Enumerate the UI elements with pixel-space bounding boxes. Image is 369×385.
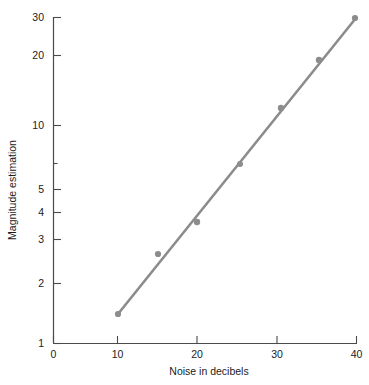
data-point bbox=[352, 15, 358, 21]
y-tick-label-30: 30 bbox=[32, 11, 44, 23]
y-axis-title: Magnitude estimation bbox=[6, 140, 18, 240]
y-tick-label-20: 20 bbox=[32, 49, 44, 61]
data-point bbox=[316, 57, 322, 63]
x-tick-label-0: 0 bbox=[51, 348, 57, 360]
y-tick-label-4: 4 bbox=[38, 206, 44, 218]
y-tick-label-2: 2 bbox=[38, 277, 44, 289]
chart-container: 30 20 10 5 4 3 2 1 0 10 20 30 40 Noise i… bbox=[0, 0, 369, 385]
y-tick-label-5: 5 bbox=[38, 183, 44, 195]
magnitude-estimation-chart: 30 20 10 5 4 3 2 1 0 10 20 30 40 Noise i… bbox=[0, 0, 369, 385]
y-tick-label-10: 10 bbox=[32, 119, 44, 131]
x-tick-label-10: 10 bbox=[112, 348, 124, 360]
x-tick-label-20: 20 bbox=[191, 348, 203, 360]
x-axis-title: Noise in decibels bbox=[169, 365, 248, 377]
data-point bbox=[155, 251, 161, 257]
x-tick-label-40: 40 bbox=[351, 348, 363, 360]
data-point bbox=[194, 219, 200, 225]
data-point bbox=[237, 161, 243, 167]
data-point bbox=[278, 105, 284, 111]
data-point bbox=[115, 311, 121, 317]
y-tick-label-1: 1 bbox=[38, 337, 44, 349]
y-tick-label-3: 3 bbox=[38, 233, 44, 245]
x-tick-label-30: 30 bbox=[271, 348, 283, 360]
